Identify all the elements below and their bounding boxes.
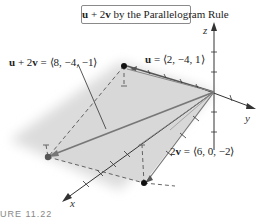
u-label: u = ⟨2, −4, 1⟩ xyxy=(145,53,205,66)
y-axis-label: y xyxy=(245,112,250,124)
z-axis-label: z xyxy=(203,24,207,36)
title-rest: by the Parallelogram Rule xyxy=(111,8,229,20)
diagram-canvas xyxy=(0,0,265,217)
x-axis-label: x xyxy=(70,197,75,209)
parallelogram-diagram: u + 2v by the Parallelogram Rule u + 2v … xyxy=(0,0,265,217)
two-v-label-value: = ⟨6, 0, −2⟩ xyxy=(181,145,234,157)
u-label-value: = ⟨2, −4, 1⟩ xyxy=(151,53,204,65)
shaded-plane xyxy=(10,62,214,190)
sum-label: u + 2v = ⟨8, −4, −1⟩ xyxy=(9,56,97,69)
sum-label-plus: + 2 xyxy=(15,56,32,68)
sum-label-value: = ⟨8, −4, −1⟩ xyxy=(38,56,98,68)
two-v-label: 2v = ⟨6, 0, −2⟩ xyxy=(170,145,234,158)
point-u-plus-2v xyxy=(45,154,51,160)
point-2v xyxy=(141,180,147,186)
point-u xyxy=(121,63,127,69)
z-axis xyxy=(211,22,217,150)
title-plus-2: + 2 xyxy=(88,8,105,20)
figure-title: u + 2v by the Parallelogram Rule xyxy=(81,5,191,24)
figure-caption: URE 11.22 xyxy=(0,209,52,217)
